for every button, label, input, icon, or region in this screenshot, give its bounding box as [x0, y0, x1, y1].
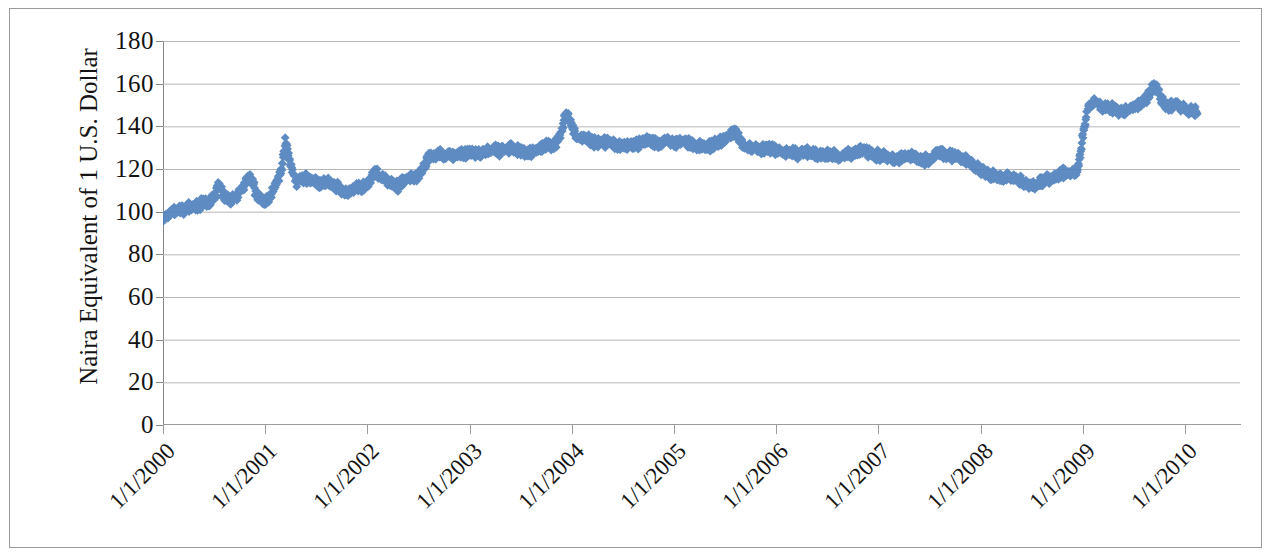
y-axis-title-container: Naira Equivalent of 1 U.S. Dollar	[40, 9, 78, 429]
x-axis-tick-mark	[572, 425, 573, 434]
plot-area	[163, 41, 1240, 425]
y-axis-tick-label: 20	[84, 369, 154, 394]
x-axis-tick-label: 1/1/2006	[691, 439, 793, 541]
x-axis-tick-mark	[1185, 425, 1186, 434]
y-axis-tick-label: 40	[84, 327, 154, 352]
chart-frame: Naira Equivalent of 1 U.S. Dollar 180160…	[9, 8, 1262, 548]
y-axis-tick-label: 80	[84, 241, 154, 266]
y-axis-tick-labels: 180160140120100806040200	[80, 9, 154, 449]
x-axis-tick-label: 1/1/2005	[589, 439, 691, 541]
x-axis-tick-mark	[163, 425, 164, 434]
x-axis-tick-label: 1/1/2002	[283, 439, 385, 541]
x-axis-tick-mark	[470, 425, 471, 434]
y-axis-tick-label: 0	[84, 412, 154, 437]
x-axis-tick-mark	[878, 425, 879, 434]
y-axis-tick-label: 100	[84, 199, 154, 224]
x-axis-tick-label: 1/1/2007	[794, 439, 896, 541]
x-axis-tick-mark	[776, 425, 777, 434]
data-series-plot	[163, 41, 1240, 425]
x-axis-tick-mark	[674, 425, 675, 434]
y-axis-tick-label: 60	[84, 284, 154, 309]
y-axis-tick-label: 160	[84, 71, 154, 96]
x-axis-tick-label: 1/1/2000	[78, 439, 180, 541]
x-axis-tick-mark	[367, 425, 368, 434]
x-axis-tick-label: 1/1/2003	[385, 439, 487, 541]
chart-figure: Naira Equivalent of 1 U.S. Dollar 180160…	[0, 0, 1267, 557]
x-axis-tick-mark	[1083, 425, 1084, 434]
gridlines	[163, 42, 1240, 383]
x-axis-tick-label: 1/1/2010	[1100, 439, 1202, 541]
data-point-marker-group	[163, 79, 1202, 225]
x-axis-tick-label: 1/1/2001	[180, 439, 282, 541]
y-axis-tick-label: 140	[84, 113, 154, 138]
x-axis-tick-label: 1/1/2009	[998, 439, 1100, 541]
y-axis-tick-label: 180	[84, 28, 154, 53]
x-axis-tick-label: 1/1/2004	[487, 439, 589, 541]
x-axis-tick-mark	[981, 425, 982, 434]
x-axis-tick-mark	[265, 425, 266, 434]
series-markers	[163, 79, 1202, 225]
y-axis-tick-label: 120	[84, 156, 154, 181]
x-axis-tick-label: 1/1/2008	[896, 439, 998, 541]
